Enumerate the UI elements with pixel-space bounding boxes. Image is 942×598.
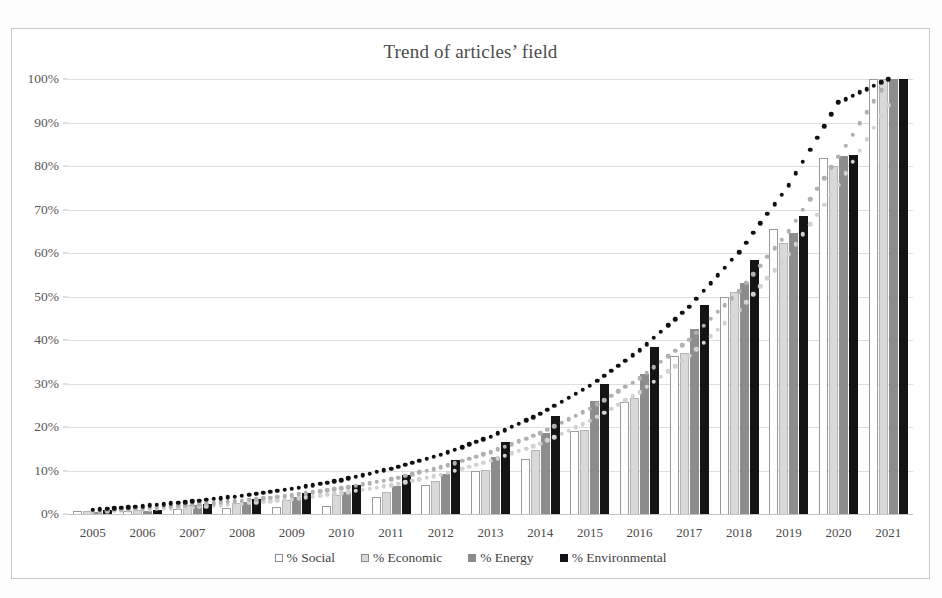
bar-environmental-2015[interactable] — [600, 384, 609, 515]
trendline-dot — [318, 489, 323, 494]
bar-economic-2019[interactable] — [779, 243, 788, 514]
bar-energy-2016[interactable] — [640, 374, 649, 514]
legend-item-energy[interactable]: % Energy — [468, 550, 533, 566]
bar-social-2011[interactable] — [372, 497, 381, 514]
trendline-dot — [368, 481, 373, 486]
bar-social-2017[interactable] — [670, 356, 679, 514]
bar-environmental-2020[interactable] — [849, 155, 858, 514]
trendline-dot — [339, 491, 344, 496]
bar-social-2009[interactable] — [272, 507, 281, 514]
legend-label: % Social — [287, 550, 335, 566]
bar-economic-2017[interactable] — [680, 353, 689, 514]
trendline-dot — [446, 450, 451, 455]
bar-social-2012[interactable] — [421, 485, 430, 514]
bar-energy-2013[interactable] — [491, 457, 500, 514]
bar-energy-2021[interactable] — [889, 79, 898, 514]
trendline-dot — [616, 389, 621, 394]
trendline-dot — [375, 480, 380, 485]
bar-social-2013[interactable] — [471, 471, 480, 514]
trendline-dot — [865, 137, 870, 142]
trendline-dot — [396, 475, 401, 480]
bar-social-2010[interactable] — [322, 506, 331, 514]
trendline-dot — [836, 100, 841, 105]
trendline-dot — [346, 476, 351, 481]
y-axis-label: 90% — [34, 115, 59, 131]
trendline-dot — [566, 428, 571, 433]
bar-social-2020[interactable] — [819, 158, 828, 514]
bar-environmental-2018[interactable] — [750, 260, 759, 514]
bar-economic-2010[interactable] — [332, 495, 341, 514]
bars — [764, 79, 814, 514]
trendline-dot — [297, 496, 302, 501]
trendline-dot — [275, 489, 280, 494]
trendline-dot — [495, 431, 500, 436]
trendline-dot — [453, 447, 458, 452]
trendline-dot — [872, 99, 877, 104]
bar-environmental-2014[interactable] — [551, 416, 560, 514]
x-axis-label-2019: 2019 — [776, 525, 802, 541]
bar-environmental-2016[interactable] — [650, 347, 659, 514]
bar-social-2014[interactable] — [521, 459, 530, 514]
trendline-dot — [424, 469, 429, 474]
trendline-dot — [510, 451, 515, 456]
legend-item-environmental[interactable]: % Environmental — [560, 550, 667, 566]
trendline-dot — [282, 488, 287, 493]
trendline-dot — [382, 468, 387, 473]
bar-economic-2012[interactable] — [431, 481, 440, 514]
bar-group-2013: 2013 — [466, 79, 516, 514]
bar-economic-2015[interactable] — [580, 430, 589, 514]
legend-item-economic[interactable]: % Economic — [361, 550, 442, 566]
bar-social-2015[interactable] — [570, 431, 579, 514]
bar-social-2016[interactable] — [620, 402, 629, 514]
bar-economic-2016[interactable] — [630, 398, 639, 514]
trendline-dot — [261, 496, 266, 501]
trendline-dot — [779, 192, 784, 197]
bar-environmental-2019[interactable] — [799, 216, 808, 514]
trendline-dot — [872, 83, 877, 88]
bar-social-2018[interactable] — [720, 297, 729, 515]
bar-group-2017: 2017 — [664, 79, 714, 514]
bar-energy-2020[interactable] — [839, 156, 848, 514]
trendline-dot — [659, 374, 664, 379]
trendline-dot — [808, 197, 813, 202]
trendline-dot — [857, 121, 862, 126]
trendline-dot — [595, 378, 600, 383]
legend-item-social[interactable]: % Social — [275, 550, 335, 566]
trendline-dot — [403, 474, 408, 479]
bar-energy-2019[interactable] — [789, 233, 798, 514]
y-axis-label: 50% — [34, 289, 59, 305]
bar-economic-2020[interactable] — [829, 166, 838, 514]
bar-social-2021[interactable] — [869, 79, 878, 514]
trendline-dot — [353, 475, 358, 480]
y-axis-label: 80% — [34, 158, 59, 174]
trendline-dot — [815, 186, 820, 191]
bar-social-2008[interactable] — [222, 508, 231, 514]
bar-environmental-2021[interactable] — [899, 79, 908, 514]
trendline-dot — [488, 450, 493, 455]
bar-economic-2009[interactable] — [282, 500, 291, 514]
trendline-dot — [637, 376, 642, 381]
trendline-dot — [595, 415, 600, 420]
trendline-dot — [517, 449, 522, 454]
bar-group-2016: 2016 — [615, 79, 665, 514]
bar-economic-2011[interactable] — [382, 492, 391, 514]
bar-economic-2013[interactable] — [481, 470, 490, 514]
trendline-dot — [389, 483, 394, 488]
bar-energy-2018[interactable] — [740, 283, 749, 514]
bar-energy-2012[interactable] — [441, 474, 450, 514]
trendline-dot — [439, 465, 444, 470]
trendline-dot — [460, 467, 465, 472]
bar-economic-2018[interactable] — [730, 292, 739, 514]
bar-social-2005[interactable] — [73, 511, 82, 514]
trendline-dot — [680, 311, 685, 316]
trendline-dot — [687, 304, 692, 309]
trendline-dot — [715, 310, 720, 315]
trendline-dot — [566, 417, 571, 422]
bar-economic-2014[interactable] — [531, 450, 540, 514]
trendline-dot — [495, 447, 500, 452]
x-axis-label-2006: 2006 — [130, 525, 156, 541]
trendline-dot — [588, 406, 593, 411]
bar-economic-2021[interactable] — [879, 79, 888, 514]
trendline-dot — [517, 421, 522, 426]
bar-energy-2011[interactable] — [392, 486, 401, 514]
